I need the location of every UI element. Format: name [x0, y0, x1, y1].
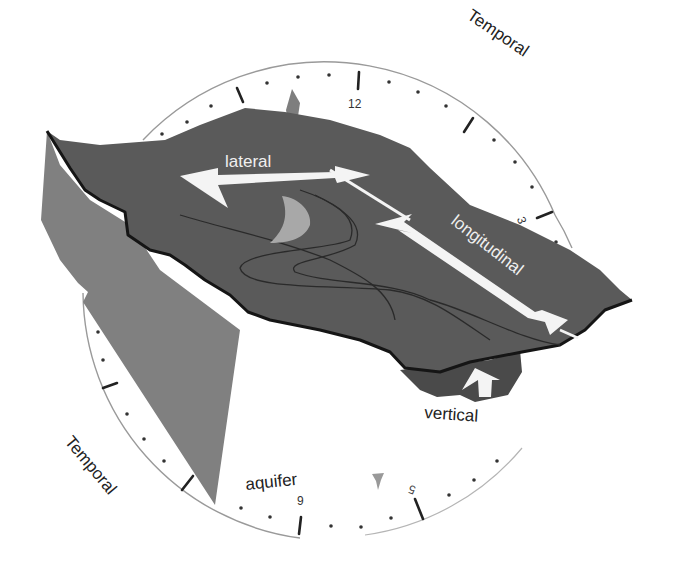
clock-number-9: 9 — [297, 494, 304, 508]
label-vertical: vertical — [424, 403, 479, 426]
clock-hand-bottom — [372, 473, 384, 490]
river-dimensions-diagram: 11 12 3 5 9 Temporal lateral — [0, 0, 676, 562]
diagram-canvas: 11 12 3 5 9 Temporal lateral — [0, 0, 676, 562]
clock-number-12: 12 — [348, 97, 362, 111]
label-lateral: lateral — [225, 152, 271, 171]
clock-rim-right — [555, 215, 572, 248]
label-temporal-bottom: Temporal — [61, 432, 120, 498]
label-aquifer: aquifer — [244, 470, 298, 494]
label-temporal-top: Temporal — [464, 6, 533, 61]
clock-number-5: 5 — [406, 482, 417, 498]
